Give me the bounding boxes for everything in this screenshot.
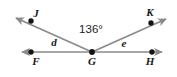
point-label-g: G bbox=[88, 55, 96, 67]
angle-diagram-figure: J K F G H d e 136° bbox=[0, 0, 177, 77]
angle-measure-jgk: 136° bbox=[79, 23, 103, 35]
point-f-dot bbox=[28, 49, 33, 54]
point-j-dot bbox=[28, 18, 33, 23]
point-k-dot bbox=[148, 20, 153, 25]
angle-diagram-canvas: J K F G H d e 136° bbox=[0, 0, 177, 77]
point-label-k: K bbox=[145, 6, 154, 18]
point-h-dot bbox=[149, 49, 154, 54]
point-label-h: H bbox=[145, 55, 155, 67]
angle-label-d: d bbox=[51, 36, 57, 48]
point-label-f: F bbox=[31, 55, 40, 67]
ray-gk bbox=[92, 19, 166, 52]
angle-label-e: e bbox=[122, 37, 127, 49]
point-label-j: J bbox=[32, 7, 39, 19]
